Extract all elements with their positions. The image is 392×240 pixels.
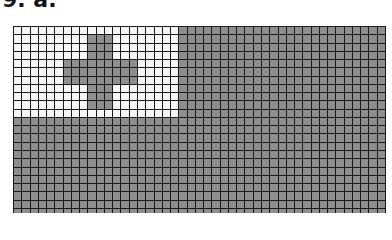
field-cell (295, 159, 303, 167)
canton-cell (97, 27, 105, 35)
field-cell (229, 143, 237, 151)
cross-cell (97, 35, 105, 43)
field-cell (295, 77, 303, 85)
field-cell (345, 126, 353, 134)
field-cell (138, 159, 146, 167)
field-cell (229, 192, 237, 200)
field-cell (146, 126, 154, 134)
field-cell (113, 201, 121, 209)
field-cell (353, 168, 361, 176)
field-cell (361, 60, 369, 68)
field-cell (237, 101, 245, 109)
canton-cell (22, 110, 30, 118)
canton-cell (64, 93, 72, 101)
field-cell (353, 101, 361, 109)
field-cell (237, 52, 245, 60)
field-cell (121, 168, 129, 176)
field-cell (262, 151, 270, 159)
field-cell (64, 134, 72, 142)
field-cell (204, 176, 212, 184)
field-cell (113, 176, 121, 184)
field-cell (179, 168, 187, 176)
field-cell (80, 134, 88, 142)
field-cell (336, 176, 344, 184)
canton-cell (47, 101, 55, 109)
field-cell (328, 118, 336, 126)
field-cell (369, 110, 377, 118)
field-cell (245, 93, 253, 101)
canton-cell (31, 110, 39, 118)
field-cell (279, 60, 287, 68)
field-cell (361, 168, 369, 176)
canton-cell (55, 85, 63, 93)
canton-cell (47, 44, 55, 52)
field-cell (336, 134, 344, 142)
canton-cell (155, 77, 163, 85)
field-cell (369, 27, 377, 35)
field-cell (303, 110, 311, 118)
field-cell (245, 52, 253, 60)
field-cell (55, 159, 63, 167)
field-cell (204, 44, 212, 52)
field-cell (320, 110, 328, 118)
field-cell (303, 27, 311, 35)
field-cell (179, 151, 187, 159)
field-cell (369, 168, 377, 176)
canton-cell (14, 77, 22, 85)
field-cell (295, 52, 303, 60)
canton-cell (163, 77, 171, 85)
field-cell (361, 77, 369, 85)
field-cell (22, 118, 30, 126)
field-cell (146, 209, 154, 213)
field-cell (204, 143, 212, 151)
field-cell (353, 159, 361, 167)
field-cell (47, 118, 55, 126)
field-cell (130, 118, 138, 126)
field-cell (378, 44, 386, 52)
field-cell (196, 176, 204, 184)
field-cell (320, 201, 328, 209)
canton-cell (22, 93, 30, 101)
field-cell (237, 209, 245, 213)
field-cell (303, 151, 311, 159)
field-cell (31, 209, 39, 213)
canton-cell (47, 27, 55, 35)
field-cell (345, 60, 353, 68)
field-cell (320, 126, 328, 134)
field-cell (262, 134, 270, 142)
field-cell (212, 168, 220, 176)
field-cell (378, 176, 386, 184)
field-cell (245, 184, 253, 192)
field-cell (254, 27, 262, 35)
canton-cell (31, 60, 39, 68)
canton-cell (64, 52, 72, 60)
field-cell (345, 110, 353, 118)
field-cell (22, 143, 30, 151)
field-cell (212, 118, 220, 126)
field-cell (80, 201, 88, 209)
cross-cell (97, 60, 105, 68)
field-cell (295, 44, 303, 52)
field-cell (378, 143, 386, 151)
canton-cell (39, 35, 47, 43)
field-cell (295, 110, 303, 118)
canton-cell (121, 27, 129, 35)
field-cell (336, 85, 344, 93)
field-cell (179, 209, 187, 213)
field-cell (287, 134, 295, 142)
field-cell (221, 209, 229, 213)
field-cell (204, 27, 212, 35)
field-cell (254, 176, 262, 184)
field-cell (361, 192, 369, 200)
canton-cell (31, 68, 39, 76)
field-cell (336, 52, 344, 60)
canton-cell (113, 44, 121, 52)
field-cell (328, 201, 336, 209)
field-cell (328, 35, 336, 43)
canton-cell (55, 52, 63, 60)
canton-cell (113, 35, 121, 43)
canton-cell (22, 60, 30, 68)
field-cell (155, 176, 163, 184)
field-cell (146, 118, 154, 126)
canton-cell (171, 27, 179, 35)
